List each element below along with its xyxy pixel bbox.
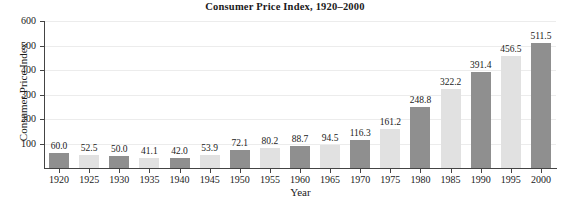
bar: [79, 155, 99, 168]
y-tick-mark: [40, 119, 44, 120]
bar: [380, 129, 400, 168]
x-tick-mark: [240, 169, 241, 173]
bar: [260, 148, 280, 168]
bar: [501, 56, 521, 168]
y-tick-mark: [40, 70, 44, 71]
x-tick-mark: [451, 169, 452, 173]
bar-value-label: 511.5: [519, 31, 563, 41]
x-tick-mark: [360, 169, 361, 173]
y-tick-label: 400: [6, 65, 36, 75]
y-tick-mark: [40, 21, 44, 22]
x-tick-mark: [89, 169, 90, 173]
x-tick-mark: [210, 169, 211, 173]
gridline: [44, 70, 556, 71]
x-tick-mark: [59, 169, 60, 173]
y-tick-label: 100: [6, 139, 36, 149]
bar: [441, 89, 461, 168]
x-tick-mark: [481, 169, 482, 173]
x-tick-mark: [420, 169, 421, 173]
bar: [49, 153, 69, 168]
chart-figure: Consumer Price Index, 1920–2000 Consumer…: [0, 0, 570, 200]
bar: [139, 158, 159, 168]
x-tick-mark: [390, 169, 391, 173]
bar: [531, 43, 551, 168]
x-tick-mark: [300, 169, 301, 173]
x-axis-title: Year: [44, 186, 557, 198]
x-tick-mark: [149, 169, 150, 173]
x-tick-mark: [511, 169, 512, 173]
chart-title: Consumer Price Index, 1920–2000: [0, 1, 570, 12]
gridline: [44, 46, 556, 47]
x-tick-mark: [541, 169, 542, 173]
bar: [320, 145, 340, 168]
bar: [290, 146, 310, 168]
bar-value-label: 161.2: [368, 117, 412, 127]
bar-value-label: 116.3: [338, 128, 382, 138]
y-tick-label: 500: [6, 41, 36, 51]
bar-value-label: 456.5: [489, 44, 533, 54]
bar: [350, 140, 370, 168]
bar: [109, 156, 129, 168]
bar-value-label: 248.8: [398, 95, 442, 105]
x-tick-mark: [330, 169, 331, 173]
bar: [170, 158, 190, 168]
y-tick-label: 300: [6, 90, 36, 100]
y-tick-mark: [40, 95, 44, 96]
bar: [471, 72, 491, 168]
gridline: [44, 21, 556, 22]
x-tick-mark: [119, 169, 120, 173]
x-tick-mark: [270, 169, 271, 173]
y-tick-mark: [40, 46, 44, 47]
bar-value-label: 322.2: [429, 77, 473, 87]
bar-value-label: 391.4: [459, 60, 503, 70]
bar: [230, 150, 250, 168]
y-tick-label: 600: [6, 16, 36, 26]
bar: [200, 155, 220, 168]
x-tick-label: 2000: [519, 174, 563, 185]
y-tick-label: 200: [6, 114, 36, 124]
bar: [410, 107, 430, 168]
x-tick-mark: [180, 169, 181, 173]
